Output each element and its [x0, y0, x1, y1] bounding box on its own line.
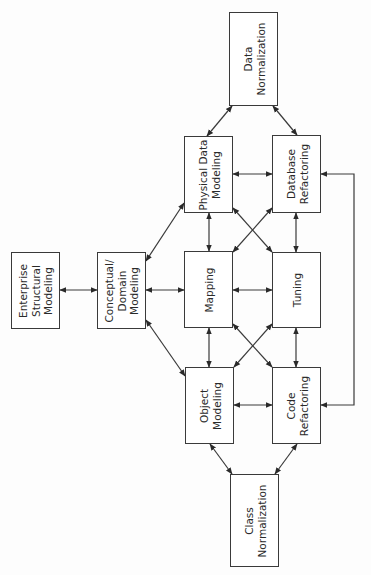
agile-modeling-diagram: DataNormalizationEnterpriseStructuralMod…: [0, 0, 371, 575]
node-label-line: Code: [284, 375, 297, 435]
node-label: DatabaseRefactoring: [284, 144, 309, 204]
node-label: Tuning: [290, 273, 303, 307]
node-label-line: Domain: [115, 259, 128, 322]
node-label: ClassNormalization: [242, 484, 267, 557]
node-label: ObjectModeling: [197, 382, 222, 430]
node-tuning: Tuning: [272, 252, 321, 328]
arrow-code-refactoring-to-database-refactoring: [321, 174, 354, 405]
node-label-line: Physical Data: [196, 139, 209, 210]
node-label-line: Normalization: [255, 484, 268, 557]
node-label-line: Modeling: [42, 263, 55, 317]
node-label-line: Class: [242, 484, 255, 557]
node-conceptual-domain-modeling: Conceptual/DomainModeling: [97, 252, 146, 329]
node-object-modeling: ObjectModeling: [185, 367, 234, 444]
node-label-line: Conceptual/: [103, 259, 116, 322]
arrow-data-normalization-to-physical-data-modeling: [207, 106, 232, 136]
node-label: Physical DataModeling: [196, 139, 221, 210]
node-label: Mapping: [202, 267, 215, 312]
node-label-line: Data: [241, 23, 254, 96]
arrow-conceptual-domain-modeling-to-physical-data-modeling: [146, 203, 184, 261]
node-label-line: Modeling: [128, 259, 141, 322]
node-label-line: Database: [284, 144, 297, 204]
arrow-code-refactoring-to-class-normalization: [275, 444, 297, 474]
node-label: Conceptual/DomainModeling: [103, 259, 141, 322]
node-label-line: Mapping: [202, 267, 215, 312]
arrow-data-normalization-to-database-refactoring: [273, 106, 297, 135]
node-label-line: Structural: [29, 263, 42, 317]
node-label-line: Object: [197, 382, 210, 430]
node-label-line: Modeling: [209, 139, 222, 210]
node-database-refactoring: DatabaseRefactoring: [272, 135, 321, 213]
node-label-line: Refactoring: [297, 144, 310, 204]
node-class-normalization: ClassNormalization: [230, 474, 279, 567]
node-code-refactoring: CodeRefactoring: [272, 367, 321, 444]
node-enterprise-structural-modeling: EnterpriseStructuralModeling: [11, 252, 60, 329]
node-label-line: Refactoring: [297, 375, 310, 435]
node-label-line: Modeling: [210, 382, 223, 430]
node-label: EnterpriseStructuralModeling: [17, 263, 55, 317]
node-label: CodeRefactoring: [284, 375, 309, 435]
node-mapping: Mapping: [184, 251, 233, 328]
node-label-line: Normalization: [254, 23, 267, 96]
node-data-normalization: DataNormalization: [229, 12, 278, 106]
node-physical-data-modeling: Physical DataModeling: [184, 136, 233, 213]
node-label: DataNormalization: [241, 23, 266, 96]
node-label-line: Tuning: [290, 273, 303, 307]
arrow-conceptual-domain-modeling-to-object-modeling: [146, 320, 185, 376]
arrow-object-modeling-to-class-normalization: [210, 444, 232, 474]
node-label-line: Enterprise: [17, 263, 30, 317]
